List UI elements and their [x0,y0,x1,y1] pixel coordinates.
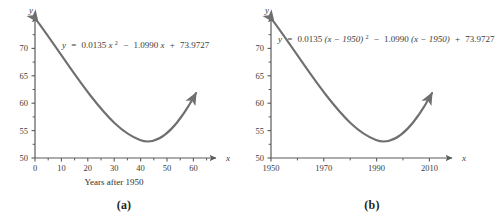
eq-a-c2: 1.0990 [134,40,159,50]
panel-caption-b: (b) [248,198,496,213]
eq-b-op1: − [374,34,379,44]
x-tick-label-b-1: 1970 [315,163,332,173]
x-tick-label-b-3: 2010 [421,163,438,173]
panel-caption-a: (a) [0,198,248,213]
eq-a-c3: 73.9727 [180,40,210,50]
x-tick-label-a-5: 50 [163,163,172,173]
eq-b-c3: 73.9727 [465,34,495,44]
x-tick-label-a-6: 60 [189,163,198,173]
eq-a-lhs: y [61,40,66,50]
plot-a: 50 55 60 65 70 0 10 20 30 40 50 60 y x Y… [0,0,248,219]
eq-b-exp: 2 [365,33,368,40]
x-tick-label-a-3: 30 [110,163,119,173]
x-axis-label-a: x [225,153,230,163]
eq-a-op2: + [170,40,175,50]
eq-a-eq: = [71,40,76,50]
eq-a-c1: 0.0135 [82,40,107,50]
x-axis-label-b: x [461,153,466,163]
y-tick-label-b-4: 70 [256,43,265,53]
eq-b-op2: + [455,34,460,44]
y-tick-label-b-2: 60 [256,98,265,108]
panel-a: 50 55 60 65 70 0 10 20 30 40 50 60 y x Y… [0,0,248,219]
eq-a-op1: − [123,40,128,50]
figure-container: 50 55 60 65 70 0 10 20 30 40 50 60 y x Y… [0,0,496,219]
eq-b-c1: 0.0135 [298,34,323,44]
y-tick-label-a-2: 60 [20,98,29,108]
x-axis-caption-a: Years after 1950 [84,177,144,187]
x-tick-label-a-1: 10 [57,163,66,173]
x-tick-label-a-2: 20 [84,163,93,173]
y-tick-label-b-3: 65 [256,71,265,81]
equation-annotation-b: y = 0.0135 (x − 1950) 2 − 1.0990 (x − 19… [277,31,495,44]
eq-a-v1: x [108,40,113,50]
y-tick-label-a-4: 70 [20,43,29,53]
plot-b: 50 55 60 65 70 1950 1970 1990 2010 y x y… [248,0,496,219]
eq-b-c2: 1.0990 [384,34,409,44]
y-axis-label-b: y [264,5,269,15]
equation-annotation-a: y = 0.0135 x 2 − 1.0990 x + 73.9727 [61,37,210,50]
x-tick-label-b-2: 1990 [368,163,385,173]
panel-b: 50 55 60 65 70 1950 1970 1990 2010 y x y… [248,0,496,219]
y-tick-label-a-0: 50 [20,153,29,163]
eq-b-g2: (x − 1950) [411,34,450,44]
y-axis-label-a: y [28,5,33,15]
x-tick-label-a-4: 40 [136,163,145,173]
x-tick-label-b-0: 1950 [263,163,280,173]
x-tick-label-a-0: 0 [33,163,37,173]
y-tick-label-a-1: 55 [20,126,29,136]
eq-a-v2: x [160,40,165,50]
eq-b-eq: = [287,34,292,44]
y-tick-label-b-0: 50 [256,153,265,163]
y-tick-label-a-3: 65 [20,71,29,81]
y-tick-label-b-1: 55 [256,126,265,136]
eq-b-lhs: y [277,34,282,44]
eq-b-g1: (x − 1950) [325,34,364,44]
eq-a-exp: 2 [115,39,118,46]
